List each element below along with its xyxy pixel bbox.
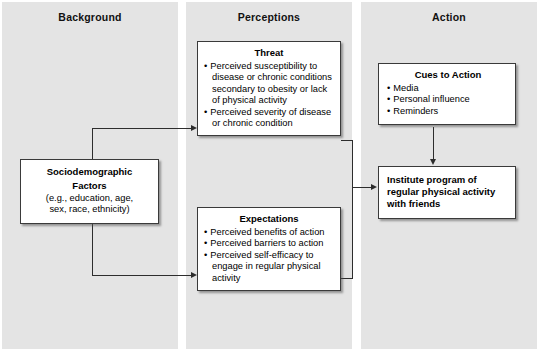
list-item: Reminders bbox=[387, 106, 509, 117]
list-item: Perceived susceptibility to disease or c… bbox=[204, 61, 334, 107]
list-item: Perceived self-efficacy to engage in reg… bbox=[204, 250, 334, 284]
threat-bullet-list: Perceived susceptibility to disease or c… bbox=[204, 61, 334, 129]
box-expectations: Expectations Perceived benefits of actio… bbox=[197, 207, 341, 291]
sociodemographic-detail-line2: sex, race, ethnicity) bbox=[27, 204, 152, 215]
health-belief-model-diagram: Background Perceptions Action Sociodemog… bbox=[0, 0, 539, 357]
sociodemographic-title-line2: Factors bbox=[27, 180, 152, 192]
box-cues-to-action: Cues to Action Media Personal influence … bbox=[378, 63, 516, 125]
arrowhead-to-institute bbox=[371, 184, 377, 190]
connector-cues-to-institute bbox=[433, 127, 434, 160]
institute-line2: regular physical activity bbox=[387, 186, 508, 198]
arrowhead-cues-to-institute bbox=[430, 159, 436, 165]
institute-line1: Institute program of bbox=[387, 174, 508, 186]
list-item: Perceived severity of disease or chronic… bbox=[204, 107, 334, 130]
column-title-action: Action bbox=[361, 11, 537, 23]
list-item: Perceived benefits of action bbox=[204, 227, 334, 238]
threat-title: Threat bbox=[204, 47, 334, 59]
institute-line3: with friends bbox=[387, 198, 508, 210]
box-sociodemographic-factors: Sociodemographic Factors (e.g., educatio… bbox=[20, 159, 159, 224]
cues-to-action-bullet-list: Media Personal influence Reminders bbox=[387, 83, 509, 117]
column-title-background: Background bbox=[2, 11, 178, 23]
cues-to-action-title: Cues to Action bbox=[387, 69, 509, 81]
sociodemographic-title-line1: Sociodemographic bbox=[27, 166, 152, 178]
list-item: Perceived barriers to action bbox=[204, 238, 334, 249]
connector-to-institute bbox=[352, 187, 373, 188]
box-threat: Threat Perceived susceptibility to disea… bbox=[197, 41, 341, 136]
sociodemographic-detail-line1: (e.g., education, age, bbox=[27, 193, 152, 204]
expectations-title: Expectations bbox=[204, 213, 334, 225]
expectations-bullet-list: Perceived benefits of action Perceived b… bbox=[204, 227, 334, 284]
list-item: Media bbox=[387, 83, 509, 94]
column-title-perceptions: Perceptions bbox=[186, 11, 352, 23]
list-item: Personal influence bbox=[387, 94, 509, 105]
connector-to-expectations bbox=[92, 275, 194, 276]
connector-to-threat bbox=[92, 128, 194, 129]
box-institute-program: Institute program of regular physical ac… bbox=[378, 166, 516, 219]
connector-perceptions-merge-trunk bbox=[352, 140, 353, 279]
